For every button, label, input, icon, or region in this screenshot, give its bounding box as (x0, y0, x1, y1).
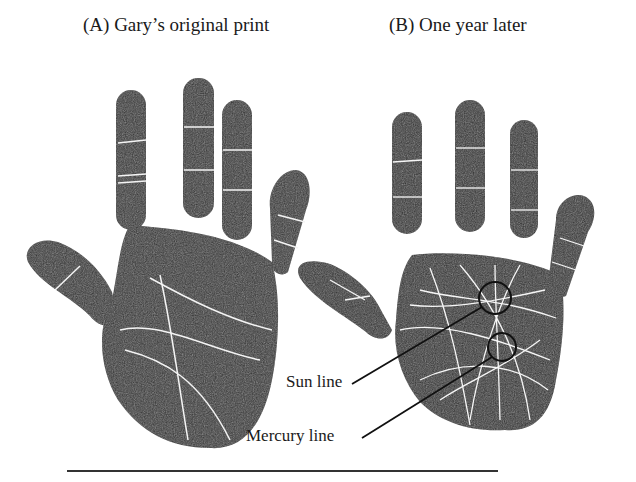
handprint-a (27, 78, 310, 448)
sun-line-label: Sun line (286, 372, 342, 392)
handprints-illustration (0, 0, 636, 482)
bottom-rule-divider (67, 470, 498, 472)
handprint-b (298, 100, 594, 430)
mercury-line-label: Mercury line (246, 426, 334, 446)
